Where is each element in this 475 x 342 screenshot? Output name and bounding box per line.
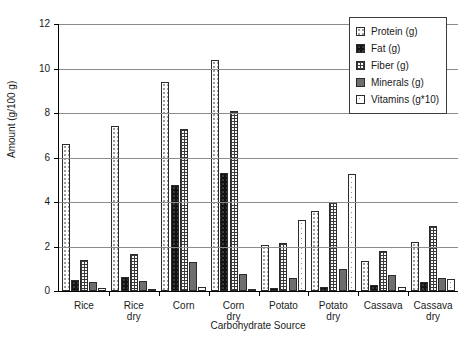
bar bbox=[220, 173, 228, 291]
y-axis-tick bbox=[54, 291, 59, 292]
bar bbox=[71, 280, 79, 291]
bar bbox=[438, 278, 446, 291]
x-axis-tick-label: Potato dry bbox=[319, 300, 348, 322]
gridline bbox=[59, 247, 458, 248]
gridline bbox=[59, 202, 458, 203]
bar bbox=[230, 111, 238, 291]
bar bbox=[320, 287, 328, 291]
bar bbox=[298, 220, 306, 291]
bar bbox=[130, 254, 138, 291]
bar bbox=[361, 261, 369, 291]
legend-item: Fat (g) bbox=[356, 40, 439, 57]
bar bbox=[339, 269, 347, 291]
y-axis-title: Amount (g/100 g) bbox=[6, 81, 17, 158]
x-axis-tick-label: Cassava bbox=[364, 300, 403, 311]
bar bbox=[311, 211, 319, 291]
legend-item: Fiber (g) bbox=[356, 57, 439, 74]
y-axis-tick bbox=[54, 24, 59, 25]
y-axis-tick bbox=[54, 158, 59, 159]
bar-chart: Amount (g/100 g) RiceRice dryCornCorn dr… bbox=[0, 0, 475, 342]
legend-swatch-icon bbox=[356, 27, 365, 36]
legend-swatch-icon bbox=[356, 44, 365, 53]
y-axis-tick-label: 0 bbox=[44, 286, 50, 296]
bar bbox=[261, 245, 269, 291]
bar bbox=[121, 277, 129, 291]
legend-label: Minerals (g) bbox=[371, 77, 424, 88]
bar bbox=[411, 242, 419, 291]
legend-item: Vitamins (g*10) bbox=[356, 91, 439, 108]
legend-label: Protein (g) bbox=[371, 26, 418, 37]
y-axis-tick-label: 12 bbox=[39, 19, 50, 29]
bar bbox=[239, 274, 247, 291]
legend-label: Fat (g) bbox=[371, 43, 400, 54]
gridline bbox=[59, 158, 458, 159]
y-axis-tick bbox=[54, 69, 59, 70]
bar bbox=[447, 279, 455, 291]
x-axis-tick-label: Cassava dry bbox=[414, 300, 453, 322]
y-axis-tick bbox=[54, 113, 59, 114]
bar bbox=[111, 126, 119, 291]
bar bbox=[139, 281, 147, 291]
bar bbox=[89, 282, 97, 291]
x-axis-tick-label: Corn bbox=[173, 300, 195, 311]
x-axis-title: Carbohydrate Source bbox=[58, 320, 458, 331]
bar bbox=[198, 287, 206, 291]
y-axis-tick-label: 10 bbox=[39, 64, 50, 74]
bar bbox=[180, 129, 188, 291]
bar bbox=[148, 289, 156, 291]
bar bbox=[270, 288, 278, 291]
bar bbox=[289, 278, 297, 291]
chart-legend: Protein (g)Fat (g)Fiber (g)Minerals (g)V… bbox=[349, 17, 447, 114]
y-axis-tick-label: 8 bbox=[44, 108, 50, 118]
legend-label: Fiber (g) bbox=[371, 60, 409, 71]
y-axis-tick-label: 4 bbox=[44, 197, 50, 207]
bar bbox=[348, 174, 356, 291]
y-axis-tick-label: 6 bbox=[44, 153, 50, 163]
legend-label: Vitamins (g*10) bbox=[371, 94, 439, 105]
bar bbox=[248, 289, 256, 291]
x-axis-tick-label: Rice bbox=[74, 300, 94, 311]
x-axis-tick-label: Corn dry bbox=[221, 300, 246, 322]
bar bbox=[98, 288, 106, 291]
bar bbox=[211, 60, 219, 291]
bar bbox=[429, 226, 437, 291]
x-axis-tick-label: Rice dry bbox=[121, 300, 146, 322]
y-axis-tick-label: 2 bbox=[44, 242, 50, 252]
bar bbox=[398, 287, 406, 291]
x-axis-tick-label: Potato bbox=[269, 300, 298, 311]
legend-swatch-icon bbox=[356, 78, 365, 87]
legend-swatch-icon bbox=[356, 61, 365, 70]
bar bbox=[370, 285, 378, 291]
legend-item: Protein (g) bbox=[356, 23, 439, 40]
bar bbox=[279, 243, 287, 291]
bar bbox=[62, 144, 70, 291]
bar bbox=[420, 282, 428, 291]
y-axis-tick bbox=[54, 202, 59, 203]
legend-item: Minerals (g) bbox=[356, 74, 439, 91]
legend-swatch-icon bbox=[356, 95, 365, 104]
bar bbox=[388, 275, 396, 291]
bar bbox=[379, 251, 387, 291]
bar bbox=[80, 260, 88, 291]
bar bbox=[189, 262, 197, 291]
y-axis-tick bbox=[54, 247, 59, 248]
